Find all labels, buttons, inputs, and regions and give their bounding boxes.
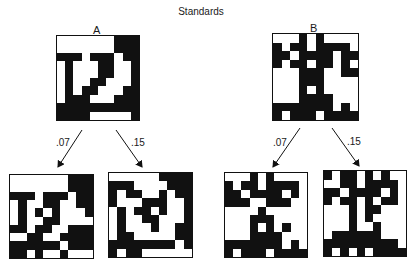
white-cell (76, 217, 84, 225)
white-cell (233, 207, 241, 215)
white-cell (167, 207, 175, 215)
white-cell (68, 208, 76, 216)
white-cell (324, 205, 332, 214)
black-cell (241, 249, 249, 257)
white-cell (332, 248, 340, 257)
white-cell (225, 232, 233, 240)
white-cell (27, 217, 35, 225)
black-cell (76, 200, 84, 208)
white-cell (167, 198, 175, 206)
black-cell (233, 198, 241, 206)
white-cell (332, 171, 340, 180)
white-cell (398, 239, 406, 248)
black-cell (159, 190, 167, 198)
black-cell (76, 241, 84, 249)
white-cell (357, 205, 365, 214)
white-cell (68, 192, 76, 200)
black-cell (258, 232, 266, 240)
black-cell (241, 198, 249, 206)
white-cell (357, 214, 365, 223)
black-cell (365, 214, 373, 223)
black-cell (373, 222, 381, 231)
black-cell (349, 197, 357, 206)
black-cell (117, 215, 125, 223)
white-cell (398, 205, 406, 214)
white-cell (299, 190, 307, 198)
white-cell (233, 223, 241, 231)
white-cell (241, 215, 249, 223)
black-cell (76, 175, 84, 183)
white-cell (60, 217, 68, 225)
black-cell (159, 198, 167, 206)
black-cell (365, 171, 373, 180)
black-cell (151, 198, 159, 206)
arrow-b-15 (332, 128, 359, 166)
white-cell (365, 222, 373, 231)
white-cell (340, 188, 348, 197)
black-cell (52, 208, 60, 216)
white-cell (175, 207, 183, 215)
white-cell (35, 200, 43, 208)
white-cell (10, 208, 18, 216)
black-cell (274, 240, 282, 248)
black-cell (43, 225, 51, 233)
white-cell (117, 198, 125, 206)
black-cell (85, 192, 93, 200)
white-cell (134, 173, 142, 181)
white-cell (76, 250, 84, 258)
white-cell (258, 198, 266, 206)
white-cell (27, 175, 35, 183)
black-cell (266, 215, 274, 223)
black-cell (142, 215, 150, 223)
black-cell (324, 248, 332, 257)
white-cell (52, 175, 60, 183)
black-cell (282, 198, 290, 206)
white-cell (126, 215, 134, 223)
black-cell (365, 188, 373, 197)
white-cell (134, 215, 142, 223)
black-cell (340, 248, 348, 257)
white-cell (250, 198, 258, 206)
black-cell (126, 249, 134, 257)
black-cell (85, 208, 93, 216)
black-cell (167, 181, 175, 189)
black-cell (175, 190, 183, 198)
black-cell (381, 171, 389, 180)
white-cell (167, 223, 175, 231)
white-cell (10, 200, 18, 208)
black-cell (332, 239, 340, 248)
white-cell (258, 223, 266, 231)
white-cell (175, 249, 183, 257)
white-cell (142, 232, 150, 240)
white-cell (381, 214, 389, 223)
white-cell (332, 180, 340, 189)
black-cell (184, 215, 192, 223)
black-cell (18, 208, 26, 216)
white-cell (299, 198, 307, 206)
white-cell (299, 181, 307, 189)
white-cell (117, 190, 125, 198)
black-cell (126, 181, 134, 189)
white-cell (398, 222, 406, 231)
white-cell (142, 181, 150, 189)
white-cell (299, 207, 307, 215)
white-cell (109, 223, 117, 231)
white-cell (241, 232, 249, 240)
black-cell (250, 232, 258, 240)
black-cell (184, 232, 192, 240)
black-cell (340, 197, 348, 206)
prob-label-b-15: .15 (347, 136, 361, 147)
black-cell (52, 241, 60, 249)
white-cell (60, 200, 68, 208)
variant-a-15-grid (108, 172, 193, 258)
white-cell (299, 215, 307, 223)
white-cell (27, 200, 35, 208)
white-cell (291, 198, 299, 206)
black-cell (10, 250, 18, 258)
white-cell (68, 217, 76, 225)
white-cell (398, 197, 406, 206)
black-cell (324, 188, 332, 197)
black-cell (52, 217, 60, 225)
white-cell (340, 205, 348, 214)
black-cell (365, 180, 373, 189)
